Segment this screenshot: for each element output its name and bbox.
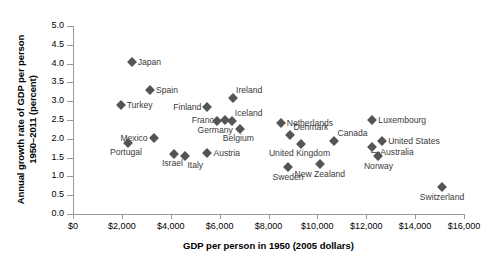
x-tick-mark bbox=[366, 214, 367, 219]
y-tick-label: 5.0 bbox=[38, 20, 64, 30]
y-axis-title: Annual growth rate of GDP per person 195… bbox=[15, 20, 38, 220]
data-point-label: Iceland bbox=[235, 109, 263, 118]
x-tick-mark bbox=[269, 214, 270, 219]
data-point-label: Australia bbox=[380, 148, 413, 157]
scatter-chart-figure: Annual growth rate of GDP per person 195… bbox=[0, 0, 496, 259]
x-tick-mark bbox=[464, 214, 465, 219]
y-tick-label: 4.5 bbox=[38, 39, 64, 49]
data-point-label: Austria bbox=[213, 149, 240, 158]
y-tick-label: 3.5 bbox=[38, 76, 64, 86]
x-tick-mark bbox=[220, 214, 221, 219]
data-point-label: Belgium bbox=[223, 134, 254, 143]
y-axis-title-line1: Annual growth rate of GDP per person bbox=[15, 20, 27, 220]
data-point-label: Ireland bbox=[236, 86, 262, 95]
y-tick-label: 4.0 bbox=[38, 58, 64, 68]
data-point-label: Luxembourg bbox=[378, 116, 426, 125]
x-tick-mark bbox=[317, 214, 318, 219]
data-point-label: Canada bbox=[337, 129, 367, 138]
x-tick-mark bbox=[415, 214, 416, 219]
x-axis-title: GDP per person in 1950 (2005 dollars) bbox=[73, 240, 464, 251]
data-point-label: Switzerland bbox=[420, 193, 464, 202]
data-point-label: Israel bbox=[162, 159, 183, 168]
data-point-label: Denmark bbox=[293, 123, 328, 132]
x-tick-label: $16,000 bbox=[434, 221, 494, 231]
data-point-label: Turkey bbox=[127, 100, 153, 109]
data-point-label: United Kingdom bbox=[269, 149, 330, 158]
data-point-label: Germany bbox=[198, 126, 233, 135]
y-tick-label: 1.0 bbox=[38, 170, 64, 180]
data-point-label: United States bbox=[388, 136, 440, 145]
y-tick-label: 2.5 bbox=[38, 114, 64, 124]
data-point-label: Italy bbox=[187, 161, 203, 170]
y-tick-label: 0.5 bbox=[38, 189, 64, 199]
x-tick-mark bbox=[73, 214, 74, 219]
data-point-label: Spain bbox=[156, 85, 178, 94]
y-tick-label: 2.0 bbox=[38, 133, 64, 143]
y-tick-label: 1.5 bbox=[38, 152, 64, 162]
data-point-label: Finland bbox=[173, 103, 201, 112]
y-tick-label: 3.0 bbox=[38, 95, 64, 105]
y-tick-label: 0.0 bbox=[38, 208, 64, 218]
y-axis-title-line2: 1950–2011 (percent) bbox=[26, 20, 38, 220]
data-point-label: Japan bbox=[138, 57, 161, 66]
x-tick-mark bbox=[171, 214, 172, 219]
data-point-label: Norway bbox=[364, 162, 393, 171]
data-point-label: Portugal bbox=[110, 148, 142, 157]
x-tick-mark bbox=[122, 214, 123, 219]
data-point-label: Sweden bbox=[273, 173, 304, 182]
